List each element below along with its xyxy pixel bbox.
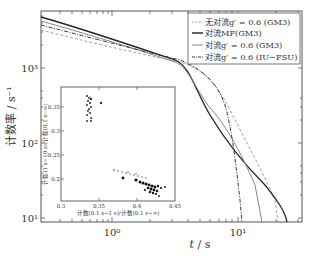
legend-label-2: 对流g′ = 0.6 (GM3) xyxy=(205,40,282,50)
ytick-1e2: 10² xyxy=(21,138,38,149)
inset-x-title: 计数(0.1 s~1 s)/计数(0.1 s~∞) xyxy=(77,209,160,217)
inset-y-title: 计数(1 s~10 s)/计数(0.1 s~∞) xyxy=(41,103,49,184)
right-ticks xyxy=(298,68,302,218)
inset-ytick-1: 0.25 xyxy=(48,152,61,158)
legend-label-0: 无对流g′ = 0.6 (GM3) xyxy=(205,17,290,27)
legend-label-3: 对流g′ = 0.6 (IU−FSU) xyxy=(205,52,297,62)
xtick-1e0: 10⁰ xyxy=(104,227,121,238)
ytick-1e1: 10¹ xyxy=(21,213,38,224)
x-axis-title: t / s xyxy=(190,238,211,251)
inset-ytick-3: 0.35 xyxy=(48,104,61,110)
inset-frame xyxy=(61,87,175,201)
light-curve-chart: 10³ 10² 10¹ 10⁰ 10¹ 计数率 / s⁻¹ t / s 无对流g… xyxy=(0,0,310,258)
ytick-1e3: 10³ xyxy=(21,63,38,74)
inset-xtick-0: 0.3 xyxy=(57,203,66,209)
legend-label-1: 对流MF(GM3) xyxy=(205,28,262,38)
inset-scatter: 0.3 0.35 0.4 0.45 0.2 0.25 0.3 0.35 计数(0… xyxy=(41,87,182,217)
xtick-1e1: 10¹ xyxy=(230,227,247,238)
inset-xtick-2: 0.4 xyxy=(133,203,142,209)
y-axis-title: 计数率 / s⁻¹ xyxy=(4,86,18,146)
inset-ytick-0: 0.2 xyxy=(51,176,60,182)
inset-ytick-2: 0.3 xyxy=(51,128,60,134)
legend: 无对流g′ = 0.6 (GM3) 对流MF(GM3) 对流g′ = 0.6 (… xyxy=(188,13,300,64)
inset-xtick-1: 0.35 xyxy=(93,203,106,209)
inset-xtick-3: 0.45 xyxy=(169,203,182,209)
